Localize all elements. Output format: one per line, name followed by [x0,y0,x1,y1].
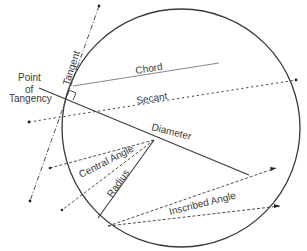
inscribed-angle-ray-1 [108,168,276,226]
label-point-of-tangency-3: Tangency [9,93,52,104]
central-angle-ray-1-end [49,167,52,170]
label-secant: Secant [136,90,169,106]
label-radius: Radius [105,167,132,199]
label-chord: Chord [135,61,164,76]
secant-endpoint-right [295,79,298,82]
label-diameter: Diameter [151,121,194,142]
tangent-endpoint-top [98,5,101,8]
inscribed-angle-arrow-1 [270,167,276,171]
inscribed-angle-arrow-2 [274,204,280,208]
tangent-endpoint-bottom [29,200,32,203]
circle-diagram: Point of Tangency Tangent Chord Secant D… [0,0,307,251]
central-angle-ray-2-end [61,209,64,212]
central-angle-ray-2 [62,140,154,210]
secant-endpoint-left [28,121,31,124]
label-point-of-tangency-1: Point [18,72,41,83]
label-inscribed-angle: Inscribed Angle [168,190,237,217]
